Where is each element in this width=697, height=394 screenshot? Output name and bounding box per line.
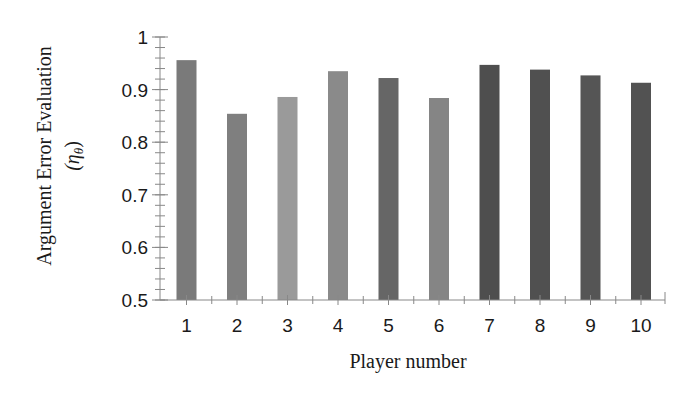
y-tick-label: 1 bbox=[137, 27, 148, 48]
bar-player-7 bbox=[480, 65, 500, 300]
x-tick-label: 10 bbox=[630, 315, 651, 336]
x-tick-label: 8 bbox=[535, 315, 546, 336]
x-tick-label: 2 bbox=[232, 315, 243, 336]
bar-player-2 bbox=[227, 114, 247, 300]
bar-player-6 bbox=[429, 98, 449, 300]
x-tick-label: 6 bbox=[434, 315, 445, 336]
bars-group bbox=[177, 60, 652, 300]
bar-player-3 bbox=[278, 97, 298, 300]
bar-player-8 bbox=[530, 70, 550, 300]
x-tick-label: 5 bbox=[383, 315, 394, 336]
x-tick-label: 9 bbox=[585, 315, 596, 336]
x-tick-label: 3 bbox=[282, 315, 293, 336]
bar-player-4 bbox=[328, 71, 348, 300]
x-tick-label: 7 bbox=[484, 315, 495, 336]
y-tick-label: 0.6 bbox=[122, 237, 148, 258]
x-tick-label: 4 bbox=[333, 315, 344, 336]
bar-player-9 bbox=[581, 75, 601, 300]
x-tick-label: 1 bbox=[181, 315, 192, 336]
y-tick-label: 0.9 bbox=[122, 80, 148, 101]
y-axis-title: Argument Error Evaluation (ηθ) bbox=[33, 46, 86, 266]
y-tick-label: 0.7 bbox=[122, 185, 148, 206]
y-axis: 0.50.60.70.80.91 bbox=[122, 27, 168, 311]
bar-player-10 bbox=[631, 83, 651, 300]
y-tick-label: 0.8 bbox=[122, 132, 148, 153]
y-axis-title-line1: Argument Error Evaluation bbox=[33, 46, 56, 266]
x-axis-title: Player number bbox=[349, 350, 467, 373]
bar-player-1 bbox=[177, 60, 197, 300]
bar-chart: 0.50.60.70.80.91 12345678910 Player numb… bbox=[0, 0, 697, 394]
y-axis-title-symbol: (ηθ) bbox=[61, 141, 86, 171]
y-tick-label: 0.5 bbox=[122, 290, 148, 311]
bar-player-5 bbox=[379, 78, 399, 300]
